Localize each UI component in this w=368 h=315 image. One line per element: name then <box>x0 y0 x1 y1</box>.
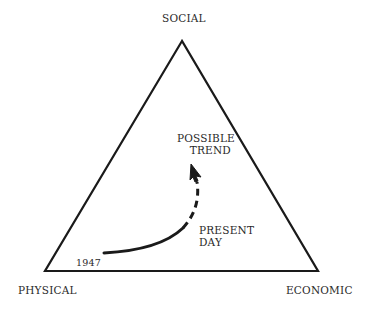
diagram-svg <box>0 0 368 315</box>
possible-trend-dashed-line <box>183 182 198 228</box>
triangle-outline <box>45 41 318 271</box>
present-day-line-1: PRESENT <box>199 224 254 236</box>
historical-trend-line <box>104 228 183 253</box>
arrowhead-icon <box>190 164 201 182</box>
possible-trend-label: POSSIBLE TREND <box>177 132 231 156</box>
present-day-label: PRESENT DAY <box>199 224 254 248</box>
start-year-label: 1947 <box>76 257 101 269</box>
vertex-label-physical: PHYSICAL <box>18 284 77 296</box>
vertex-label-economic: ECONOMIC <box>286 284 353 296</box>
present-day-line-2: DAY <box>199 236 254 248</box>
possible-trend-line-2: TREND <box>177 144 231 156</box>
possible-trend-line-1: POSSIBLE <box>177 132 231 144</box>
vertex-label-social: SOCIAL <box>162 12 206 24</box>
triangle-diagram: SOCIAL PHYSICAL ECONOMIC 1947 PRESENT DA… <box>0 0 368 315</box>
